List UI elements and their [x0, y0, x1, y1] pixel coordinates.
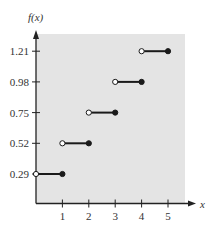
- open-endpoint: [33, 171, 38, 176]
- x-tick-label: 3: [112, 210, 118, 222]
- closed-endpoint: [139, 79, 144, 84]
- y-tick-label: 0.75: [10, 107, 30, 119]
- x-axis-label: x: [199, 198, 205, 210]
- y-tick-label: 0.29: [10, 168, 30, 180]
- closed-endpoint: [60, 171, 65, 176]
- y-tick-label: 0.98: [10, 76, 30, 88]
- x-tick-label: 5: [165, 210, 171, 222]
- plot-background: [36, 34, 185, 204]
- x-tick-label: 4: [139, 210, 145, 222]
- y-tick-label: 0.52: [10, 137, 29, 149]
- y-tick-label: 1.21: [10, 45, 29, 57]
- closed-endpoint: [113, 110, 118, 115]
- closed-endpoint: [86, 141, 91, 146]
- open-endpoint: [60, 141, 65, 146]
- step-function-chart: 123450.290.520.750.981.21 f(x) x: [0, 0, 215, 232]
- x-tick-label: 2: [86, 210, 92, 222]
- open-endpoint: [139, 49, 144, 54]
- closed-endpoint: [165, 49, 170, 54]
- x-axis-arrow-icon: [188, 201, 196, 207]
- open-endpoint: [113, 79, 118, 84]
- y-axis-label: f(x): [28, 11, 44, 24]
- x-tick-label: 1: [60, 210, 66, 222]
- open-endpoint: [86, 110, 91, 115]
